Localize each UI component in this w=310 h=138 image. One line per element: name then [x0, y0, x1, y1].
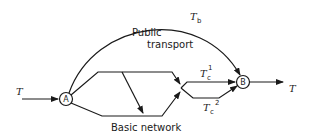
output-flow-label: T: [289, 83, 297, 94]
tc1-label: T c 1: [200, 64, 212, 82]
input-flow-label: T: [16, 86, 24, 97]
svg-text:c: c: [207, 74, 211, 82]
basic-network-lower-path: [71, 92, 180, 116]
node-a: A: [60, 93, 73, 106]
public-transport-label-line2: transport: [147, 39, 193, 50]
basic-network-upper-path: [71, 72, 180, 95]
tc2-label: T c 2: [203, 99, 219, 116]
svg-text:b: b: [197, 17, 202, 25]
svg-text:1: 1: [208, 64, 212, 72]
node-b-label: B: [240, 78, 246, 87]
node-a-label: A: [63, 95, 69, 104]
node-b: B: [237, 76, 250, 89]
basic-network-cross-link: [122, 72, 143, 113]
svg-text:c: c: [210, 108, 214, 116]
svg-text:2: 2: [215, 99, 219, 107]
tb-label: T b: [190, 11, 202, 25]
transport-network-diagram: T A Public transport T b Basic network T…: [0, 0, 310, 138]
public-transport-label-line1: Public: [132, 27, 162, 38]
basic-network-label: Basic network: [111, 122, 181, 133]
tc2-path: [181, 86, 237, 98]
tc1-path: [181, 82, 235, 88]
